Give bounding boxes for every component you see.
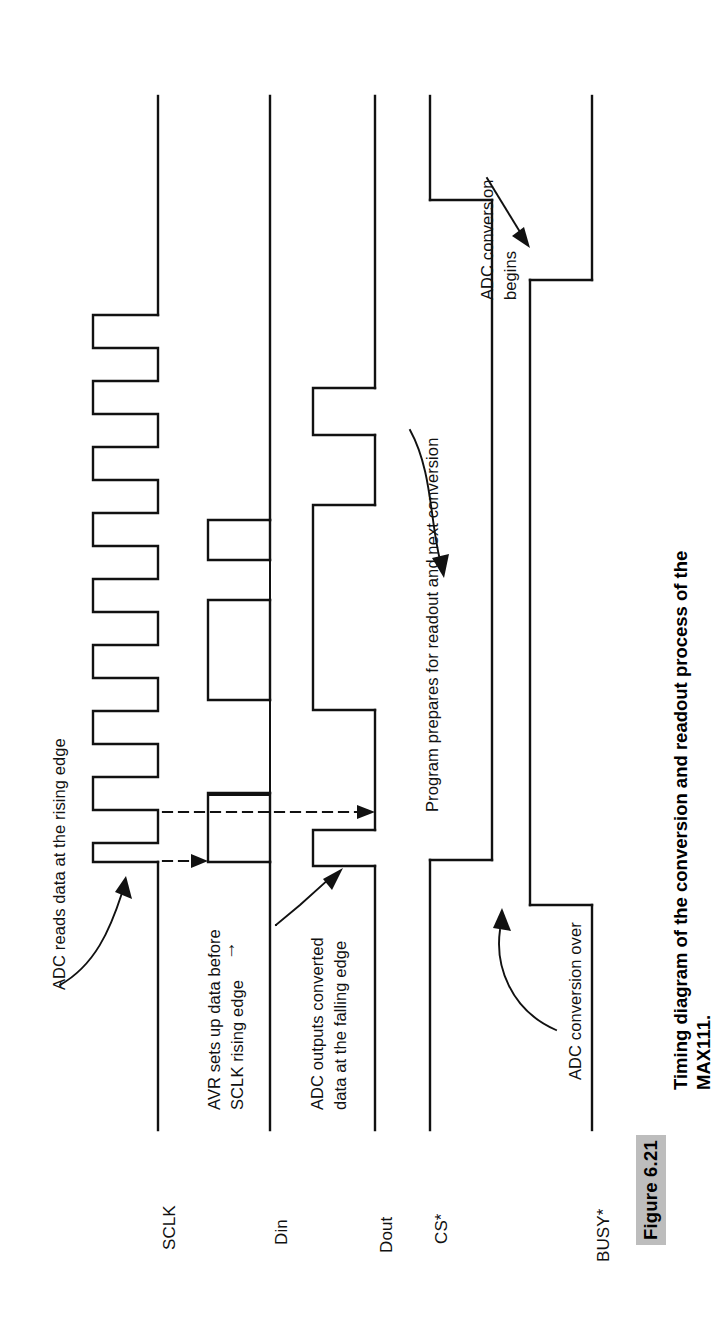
signal-label-dout: Dout <box>377 1217 397 1253</box>
tie-sclk-to-din <box>163 854 208 868</box>
waveform-sclk <box>93 96 158 1130</box>
signal-label-busy: BUSY* <box>594 1209 614 1262</box>
figure-caption-line1: Timing diagram of the conversion and rea… <box>669 551 692 1090</box>
annotation-dout-falling-line1: ADC outputs converted <box>308 937 327 1110</box>
figure-caption-line2: MAX111. <box>692 1015 715 1090</box>
annotation-avr-setup-arrow: → <box>218 941 240 960</box>
leader-busy-over <box>493 908 556 1030</box>
signal-label-din: Din <box>272 1219 292 1245</box>
annotation-avr-setup-line2: SCLK rising edge <box>228 980 247 1110</box>
annotation-busy-over: ADC conversion over <box>566 922 585 1080</box>
signal-label-cs: CS* <box>432 1213 452 1244</box>
leader-dout-falling <box>276 868 343 925</box>
annotation-busy-begins-line1: ADC conversion <box>478 179 497 300</box>
figure-number: Figure 6.21 <box>636 1135 666 1245</box>
leader-sclk-rising <box>60 876 132 985</box>
annotation-busy-begins-line2: begins <box>501 251 520 300</box>
annotation-dout-falling-line2: data at the falling edge <box>331 941 350 1110</box>
annotation-cs-prepare: Program prepares for readout and next co… <box>423 438 442 812</box>
signal-label-sclk: SCLK <box>160 1205 180 1250</box>
annotation-sclk-rising: ADC reads data at the rising edge <box>50 738 69 990</box>
